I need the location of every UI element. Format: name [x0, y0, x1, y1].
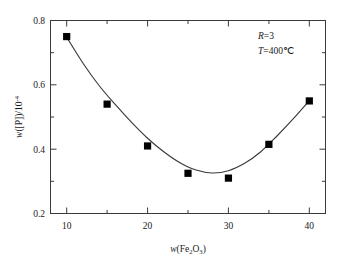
x-tick-label: 30 [224, 221, 234, 231]
x-tick-label: 10 [62, 221, 72, 231]
y-tick-label: 0.4 [33, 145, 45, 155]
data-point-marker [63, 33, 70, 40]
x-axis-title-close: ) [203, 244, 206, 255]
x-axis-title: w(Fe2O3) [170, 244, 206, 255]
data-point-marker [306, 97, 313, 104]
y-tick-label: 0.6 [33, 80, 45, 90]
x-axis-tick-labels: 10 20 30 40 [62, 221, 314, 231]
chart-figure: 0.2 0.4 0.6 0.8 10 20 30 40 w(Fe2O3) w([… [0, 0, 342, 266]
y-tick-label: 0.2 [33, 209, 45, 219]
annotation-temperature: T=400℃ [258, 46, 294, 56]
x-axis-title-open: (Fe [177, 244, 190, 255]
data-point-marker [225, 175, 232, 182]
x-tick-label: 40 [305, 221, 315, 231]
y-axis-title-body: ([P])/10 [14, 101, 25, 131]
y-axis-title: w([P])/10-4 [13, 95, 26, 138]
y-axis-title-exponent: -4 [13, 95, 20, 101]
x-axis-minor-ticks [107, 21, 269, 214]
data-point-marker [104, 101, 111, 108]
y-axis-tick-labels: 0.2 0.4 0.6 0.8 [33, 16, 45, 219]
data-point-marker [184, 170, 191, 177]
fitted-curve [67, 37, 310, 173]
data-point-marker [144, 142, 151, 149]
annotation-group: R=3 T=400℃ [257, 31, 294, 56]
y-tick-label: 0.8 [33, 16, 45, 26]
annotation-ratio: R=3 [257, 31, 274, 41]
x-tick-label: 20 [143, 221, 153, 231]
data-point-marker [265, 141, 272, 148]
scatter-plot: 0.2 0.4 0.6 0.8 10 20 30 40 w(Fe2O3) w([… [0, 0, 342, 266]
y-axis-minor-ticks [51, 53, 326, 182]
annotation-ratio-value: 3 [269, 31, 274, 41]
annotation-temperature-value: 400℃ [269, 46, 294, 56]
